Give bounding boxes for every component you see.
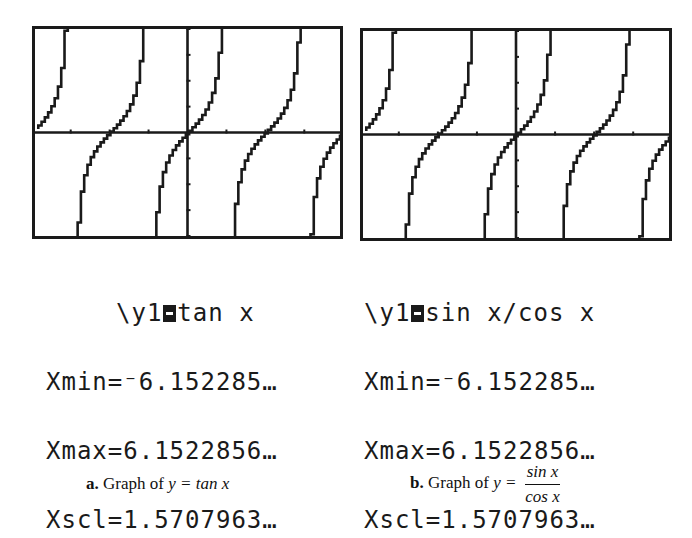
xscl-line: Xscl=1.5707963… — [364, 509, 596, 532]
graph-screen-sin-over-cos — [360, 28, 672, 241]
caption-math-lhs: y = — [493, 473, 516, 492]
equals-selected-icon — [411, 305, 424, 322]
function-line: \y1sin x/cos x — [364, 302, 596, 325]
graph-screen-tan — [32, 26, 343, 239]
y1-label: \y1 — [364, 299, 410, 327]
fraction-numerator: sin x — [525, 462, 561, 485]
panel-sin-over-cos: \y1sin x/cos x Xmin=⁻6.152285… Xmax=6.15… — [346, 0, 692, 538]
caption-math: y = tan x — [168, 474, 229, 493]
graph-plot-tan — [35, 29, 340, 236]
window-settings-tan: \y1tan x Xmin=⁻6.152285… Xmax=6.1522856…… — [46, 256, 278, 538]
tan-curve-branch — [310, 136, 340, 236]
caption-a: a. Graph of y = tan x — [86, 474, 229, 494]
function-line: \y1tan x — [46, 302, 278, 325]
xmin-line: Xmin=⁻6.152285… — [364, 371, 596, 394]
function-expression: tan x — [177, 299, 254, 327]
fraction: sin x cos x — [525, 462, 561, 507]
xmax-line: Xmax=6.1522856… — [364, 440, 596, 463]
xmin-line: Xmin=⁻6.152285… — [46, 371, 278, 394]
caption-label: b. — [410, 473, 424, 492]
panel-tan: \y1tan x Xmin=⁻6.152285… Xmax=6.1522856…… — [0, 0, 346, 538]
caption-b: b. Graph of y = sin x cos x — [410, 462, 560, 507]
caption-label: a. — [86, 474, 99, 493]
xmax-line: Xmax=6.1522856… — [46, 440, 278, 463]
xscl-line: Xscl=1.5707963… — [46, 509, 278, 532]
function-expression: sin x/cos x — [425, 299, 595, 327]
equals-selected-icon — [163, 305, 176, 322]
y1-label: \y1 — [116, 299, 162, 327]
caption-text: Graph of — [428, 473, 489, 492]
fraction-denominator: cos x — [525, 485, 561, 507]
tan-curve-branch — [366, 31, 399, 131]
graph-plot-sin-over-cos — [363, 31, 669, 238]
tan-curve-branch — [639, 138, 669, 238]
tan-curve-branch — [38, 29, 71, 129]
caption-text: Graph of — [103, 474, 164, 493]
